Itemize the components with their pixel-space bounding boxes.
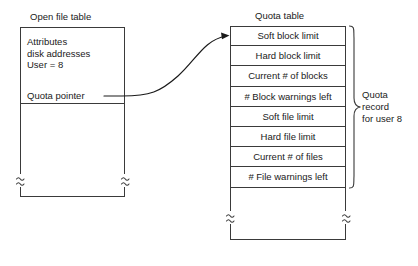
quota-diagram: Open file table Quota table Attributes d… bbox=[0, 0, 418, 266]
open-file-table-fields: Attributes disk addresses User = 8 bbox=[27, 36, 90, 71]
quota-record-label: Quota record for user 8 bbox=[362, 89, 402, 126]
open-file-table-field-user: User = 8 bbox=[27, 59, 90, 71]
table-row: Hard block limit bbox=[230, 46, 346, 66]
open-file-table-field-attributes: Attributes bbox=[27, 36, 90, 48]
open-file-table-row-divider bbox=[20, 103, 125, 104]
curly-brace-icon bbox=[348, 24, 362, 190]
table-row: # File warnings left bbox=[230, 167, 346, 187]
quota-record-label-line-2: record bbox=[362, 101, 402, 113]
table-row: Soft block limit bbox=[230, 26, 346, 46]
open-file-table-caption: Open file table bbox=[30, 11, 91, 22]
table-row: Current # of files bbox=[230, 147, 346, 167]
open-file-table-field-disk-addresses: disk addresses bbox=[27, 48, 90, 60]
table-row: Current # of blocks bbox=[230, 66, 346, 86]
quota-record-label-line-1: Quota bbox=[362, 89, 402, 101]
quota-pointer-label: Quota pointer bbox=[27, 90, 85, 101]
quota-table-rows: Soft block limit Hard block limit Curren… bbox=[230, 26, 346, 188]
quota-table-caption: Quota table bbox=[255, 10, 304, 21]
quota-record-label-line-3: for user 8 bbox=[362, 113, 402, 125]
table-row: # Block warnings left bbox=[230, 87, 346, 107]
table-row: Soft file limit bbox=[230, 107, 346, 127]
table-row: Hard file limit bbox=[230, 127, 346, 147]
